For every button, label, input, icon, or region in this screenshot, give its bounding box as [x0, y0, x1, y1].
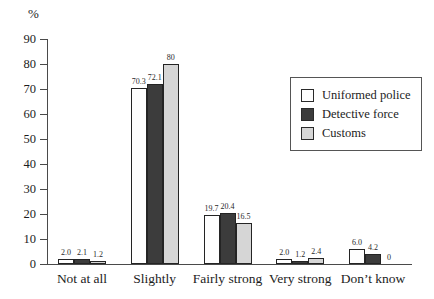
legend-label: Customs [322, 126, 366, 141]
y-tick-label: 0 [8, 257, 36, 271]
y-axis-line [47, 39, 48, 265]
bar-value-label: 80 [154, 53, 188, 62]
bar [308, 258, 324, 264]
bar [147, 84, 163, 264]
bar [204, 215, 220, 264]
y-tick-label: 80 [8, 57, 36, 71]
bar [58, 259, 74, 264]
legend-item: Detective force [301, 105, 421, 124]
y-tick-label: 40 [8, 157, 36, 171]
bar [276, 259, 292, 264]
y-tick-label: 70 [8, 82, 36, 96]
y-axis-unit-label: % [28, 6, 39, 22]
bar-value-label: 1.2 [81, 250, 115, 259]
y-tick-mark [40, 214, 48, 215]
y-tick-mark [40, 139, 48, 140]
y-tick-mark [40, 164, 48, 165]
bar-value-label: 2.4 [299, 247, 333, 256]
y-tick-label: 30 [8, 182, 36, 196]
legend-label: Uniformed police [322, 88, 411, 103]
bar [292, 261, 308, 264]
bar-value-label: 20.4 [211, 202, 245, 211]
bar-value-label: 16.5 [227, 212, 261, 221]
y-tick-mark [40, 39, 48, 40]
legend-swatch [301, 89, 314, 102]
y-tick-mark [40, 189, 48, 190]
y-tick-label: 90 [8, 32, 36, 46]
y-tick-mark [40, 89, 48, 90]
bar [131, 88, 147, 264]
legend-label: Detective force [322, 107, 399, 122]
bar-value-label: 4.2 [356, 243, 390, 252]
x-axis-line [47, 264, 412, 265]
y-tick-mark [40, 64, 48, 65]
y-tick-mark [40, 114, 48, 115]
legend-item: Uniformed police [301, 86, 421, 105]
legend-swatch [301, 127, 314, 140]
y-tick-mark [40, 264, 48, 265]
legend-box: Uniformed policeDetective forceCustoms [290, 77, 422, 151]
y-tick-label: 10 [8, 232, 36, 246]
legend-item: Customs [301, 124, 421, 143]
bar [236, 223, 252, 264]
y-tick-label: 60 [8, 107, 36, 121]
y-tick-label: 20 [8, 207, 36, 221]
y-tick-mark [40, 239, 48, 240]
bar [74, 259, 90, 264]
bar-value-label: 0 [372, 253, 406, 262]
x-category-label: Don’t know [318, 271, 428, 287]
y-tick-label: 50 [8, 132, 36, 146]
grouped-bar-chart-figure: % 0102030405060708090 2.02.11.270.372.18… [0, 0, 434, 299]
bar [163, 64, 179, 264]
bar [90, 261, 106, 264]
legend-swatch [301, 108, 314, 121]
